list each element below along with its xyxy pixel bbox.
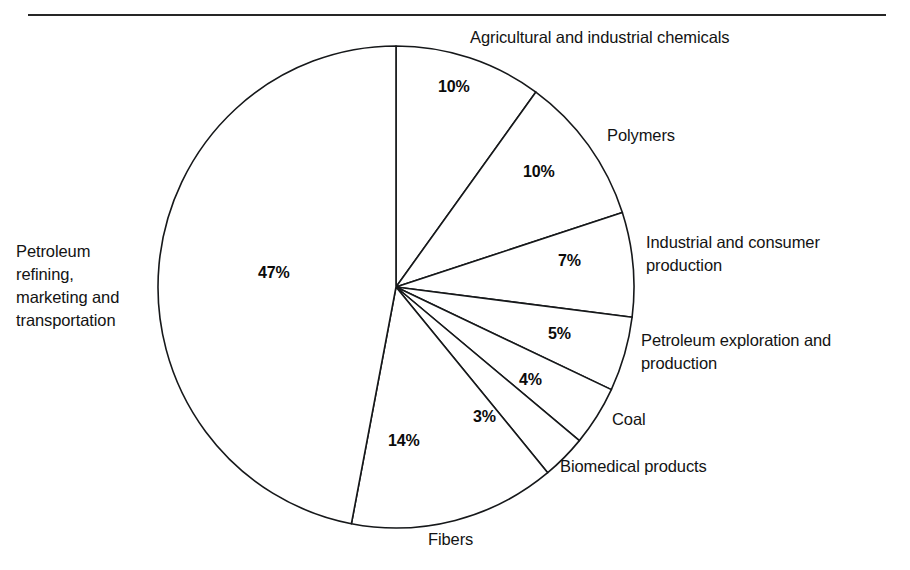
- pie-category-label-fibers: Fibers: [428, 528, 473, 551]
- pie-category-label-agricultural: Agricultural and industrial chemicals: [470, 26, 730, 49]
- pie-chart-figure: 10% 10% 7% 5% 4% 3% 14% 47% Agricultural…: [0, 0, 910, 570]
- pie-value-label-coal: 4%: [519, 371, 542, 389]
- pie-category-label-petroleum-exploration-line1: Petroleum exploration and: [641, 329, 831, 352]
- pie-value-label-agricultural: 10%: [438, 78, 469, 96]
- pie-value-label-petroleum-exploration: 5%: [548, 325, 571, 343]
- pie-category-label-industrial-line1: Industrial and consumer: [646, 231, 820, 254]
- pie-category-label-petroleum-exploration-line2: production: [641, 352, 717, 375]
- pie-value-label-industrial: 7%: [558, 252, 581, 270]
- pie-value-label-fibers: 14%: [388, 432, 419, 450]
- pie-category-label-industrial-line2: production: [646, 254, 722, 277]
- pie-category-label-refining-line1: Petroleum: [16, 240, 90, 263]
- pie-category-label-biomedical: Biomedical products: [560, 455, 707, 478]
- pie-value-label-biomedical: 3%: [473, 408, 496, 426]
- pie-value-label-refining: 47%: [258, 264, 289, 282]
- pie-category-label-refining-line2: refining,: [16, 263, 74, 286]
- pie-category-label-coal: Coal: [612, 408, 646, 431]
- pie-category-label-refining-line3: marketing and: [16, 286, 119, 309]
- pie-category-label-refining-line4: transportation: [16, 309, 116, 332]
- pie-category-label-polymers: Polymers: [607, 124, 675, 147]
- pie-slice[interactable]: [158, 46, 396, 524]
- pie-value-label-polymers: 10%: [523, 163, 554, 181]
